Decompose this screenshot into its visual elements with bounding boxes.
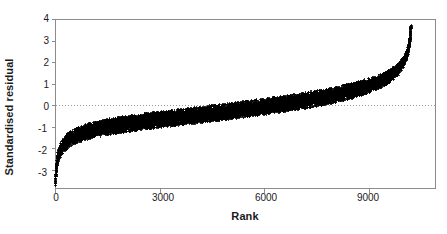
- y-tick-label-3: 3: [27, 35, 49, 46]
- y-tick-label-2: 2: [27, 57, 49, 68]
- x-tick-label-3000: 3000: [143, 192, 183, 203]
- y-tick-label-neg3: -3: [25, 167, 47, 178]
- x-tick-label-6000: 6000: [246, 192, 286, 203]
- y-tick-label-neg1: -1: [25, 123, 47, 134]
- x-axis-title: Rank: [55, 210, 435, 222]
- y-tick-label-neg2: -2: [25, 145, 47, 156]
- x-tick-label-9000: 9000: [348, 192, 388, 203]
- y-axis-title: Standardised residual: [0, 0, 18, 234]
- y-tick-label-1: 1: [27, 79, 49, 90]
- y-tick-label-0: 0: [27, 101, 49, 112]
- x-tick-label-0: 0: [36, 192, 76, 203]
- y-tick-label-4: 4: [27, 13, 49, 24]
- chart-figure: Standardised residual Rank 4 3 2 1 0 -1 …: [0, 0, 447, 234]
